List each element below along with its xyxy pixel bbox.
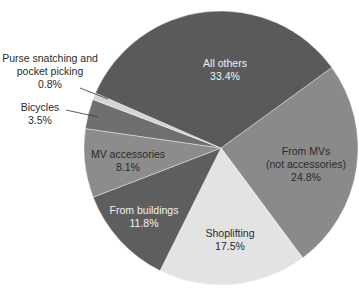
label-shoplifting-value: 17.5% — [205, 240, 254, 253]
label-mv-accessories: MV accessories 8.1% — [91, 148, 165, 174]
label-purse-line2: pocket picking — [2, 65, 98, 78]
label-bicycles-name: Bicycles — [21, 101, 60, 114]
label-from-buildings-value: 11.8% — [110, 217, 179, 230]
label-shoplifting-name: Shoplifting — [205, 227, 254, 240]
label-bicycles-value: 3.5% — [21, 114, 60, 127]
label-all-others-value: 33.4% — [203, 70, 247, 83]
label-mv-accessories-value: 8.1% — [91, 161, 165, 174]
label-mv-accessories-name: MV accessories — [91, 148, 165, 161]
label-shoplifting: Shoplifting 17.5% — [205, 227, 254, 253]
label-purse-value: 0.8% — [2, 78, 98, 91]
label-purse-line1: Purse snatching and — [2, 52, 98, 65]
label-from-buildings-name: From buildings — [110, 204, 179, 217]
label-from-mvs-line2: (not accessories) — [266, 158, 346, 171]
label-purse-snatching: Purse snatching and pocket picking 0.8% — [2, 52, 98, 91]
label-from-mvs: From MVs (not accessories) 24.8% — [266, 145, 346, 184]
label-all-others: All others 33.4% — [203, 57, 247, 83]
label-from-mvs-value: 24.8% — [266, 171, 346, 184]
label-bicycles: Bicycles 3.5% — [21, 101, 60, 127]
label-from-mvs-line1: From MVs — [266, 145, 346, 158]
label-from-buildings: From buildings 11.8% — [110, 204, 179, 230]
pie-chart — [0, 0, 359, 288]
label-all-others-name: All others — [203, 57, 247, 70]
